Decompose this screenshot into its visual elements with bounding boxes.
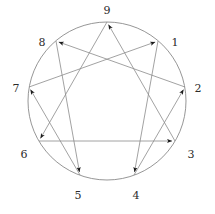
vertex-label-1: 1 [168,37,182,48]
outer-circle [28,22,186,180]
enneagram-canvas [0,0,215,214]
vertex-label-3: 3 [184,149,198,160]
hexad-edge-1-to-4 [135,41,158,172]
triangle-edge-9-to-6 [40,22,107,138]
inner-hexad [29,41,185,175]
triangle-edge-3-to-9 [108,25,175,141]
vertex-label-8: 8 [35,37,49,48]
vertex-label-9: 9 [100,5,114,16]
hexad-edge-8-to-5 [56,41,79,172]
vertex-label-6: 6 [17,149,31,160]
vertex-label-7: 7 [9,83,23,94]
enneagram-diagram: 912345678 [0,0,215,214]
inner-triangle [39,22,175,141]
vertex-label-5: 5 [71,190,85,201]
vertex-label-4: 4 [129,190,143,201]
vertex-label-2: 2 [191,83,205,94]
